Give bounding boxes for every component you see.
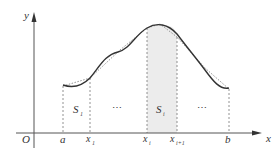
- region-label-s1: S: [73, 103, 79, 115]
- riemann-sum-diagram: y x O a x 1 x i x i+1 b S 1 ⋯ S i ⋯: [0, 0, 276, 154]
- tick-label-xi1: x: [169, 133, 175, 144]
- y-axis-arrow-icon: [32, 12, 37, 22]
- x-axis-arrow-icon: [252, 131, 262, 136]
- region-ellipsis-2: ⋯: [197, 102, 207, 113]
- tick-label-x1: x: [85, 133, 91, 144]
- tick-label-a: a: [60, 133, 66, 145]
- origin-label: O: [22, 133, 30, 145]
- x-axis-label: x: [265, 132, 271, 144]
- region-label-si: S: [156, 103, 162, 115]
- region-sub-s1: 1: [80, 111, 83, 117]
- tick-sub-xi: i: [149, 140, 151, 146]
- shaded-strip-si: [147, 25, 177, 133]
- axes: [16, 12, 262, 148]
- tick-sub-xi1: i+1: [176, 140, 185, 146]
- region-ellipsis-1: ⋯: [112, 102, 122, 113]
- y-axis-label: y: [23, 9, 29, 21]
- tick-sub-x1: 1: [92, 140, 95, 146]
- tick-label-xi: x: [142, 133, 148, 144]
- function-curve: [63, 25, 229, 89]
- tick-label-b: b: [225, 133, 231, 145]
